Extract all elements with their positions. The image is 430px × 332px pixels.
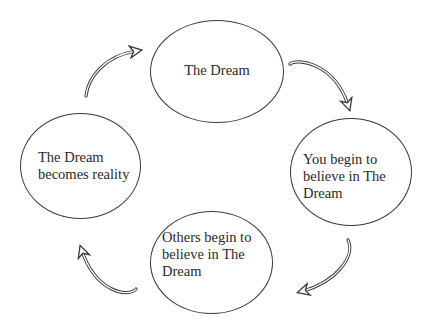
node-others-begin-to-believe: Others begin to believe in The Dream	[150, 211, 273, 314]
node-label: Others begin to believe in The Dream	[162, 229, 251, 280]
node-label: The Dream	[151, 62, 283, 79]
node-dream-becomes-reality: The Dream becomes reality	[20, 113, 141, 219]
node-label: The Dream becomes reality	[38, 149, 129, 183]
curved-arrow-icon	[86, 51, 136, 96]
curved-arrow-icon	[303, 240, 350, 291]
node-the-dream: The Dream	[150, 20, 284, 123]
curved-arrow-icon	[82, 251, 136, 293]
node-label: You begin to believe in The Dream	[303, 151, 386, 202]
curved-arrow-icon	[290, 62, 348, 105]
node-you-begin-to-believe: You begin to believe in The Dream	[290, 118, 412, 226]
cycle-diagram: The Dream You begin to believe in The Dr…	[0, 0, 430, 332]
